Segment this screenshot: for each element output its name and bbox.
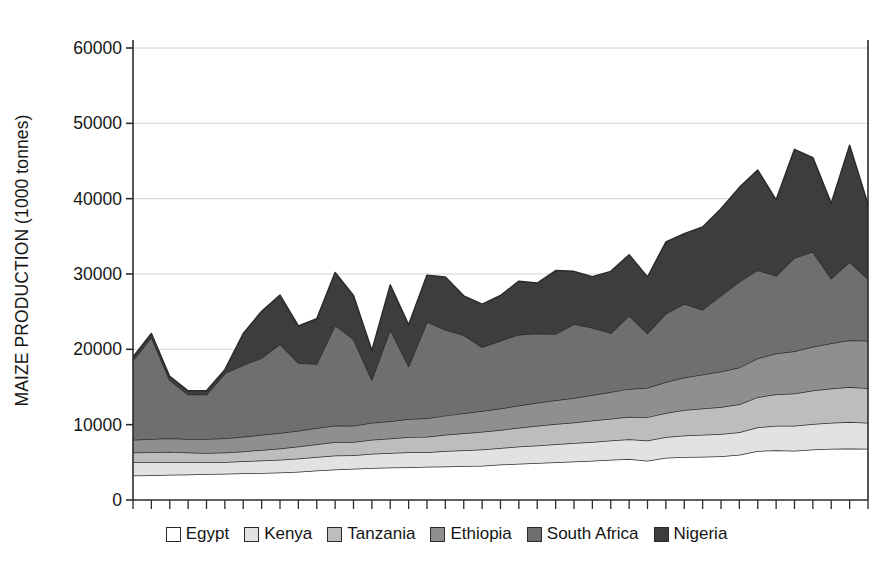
legend-swatch-icon <box>166 527 181 542</box>
legend-swatch-icon <box>527 527 542 542</box>
maize-production-stacked-area-chart: MAIZE PRODUCTION (1000 tonnes) 010000200… <box>0 0 893 581</box>
chart-legend: EgyptKenyaTanzaniaEthiopiaSouth AfricaNi… <box>0 524 893 544</box>
legend-item-ethiopia[interactable]: Ethiopia <box>430 524 511 544</box>
legend-label: Ethiopia <box>450 524 511 544</box>
legend-label: South Africa <box>547 524 639 544</box>
legend-item-egypt[interactable]: Egypt <box>166 524 229 544</box>
legend-item-tanzania[interactable]: Tanzania <box>327 524 415 544</box>
legend-swatch-icon <box>654 527 669 542</box>
legend-swatch-icon <box>430 527 445 542</box>
legend-item-south-africa[interactable]: South Africa <box>527 524 639 544</box>
legend-item-nigeria[interactable]: Nigeria <box>654 524 728 544</box>
legend-label: Egypt <box>186 524 229 544</box>
plot-area <box>0 0 893 581</box>
legend-label: Tanzania <box>347 524 415 544</box>
legend-label: Kenya <box>264 524 312 544</box>
legend-item-kenya[interactable]: Kenya <box>244 524 312 544</box>
legend-swatch-icon <box>327 527 342 542</box>
legend-label: Nigeria <box>674 524 728 544</box>
legend-swatch-icon <box>244 527 259 542</box>
